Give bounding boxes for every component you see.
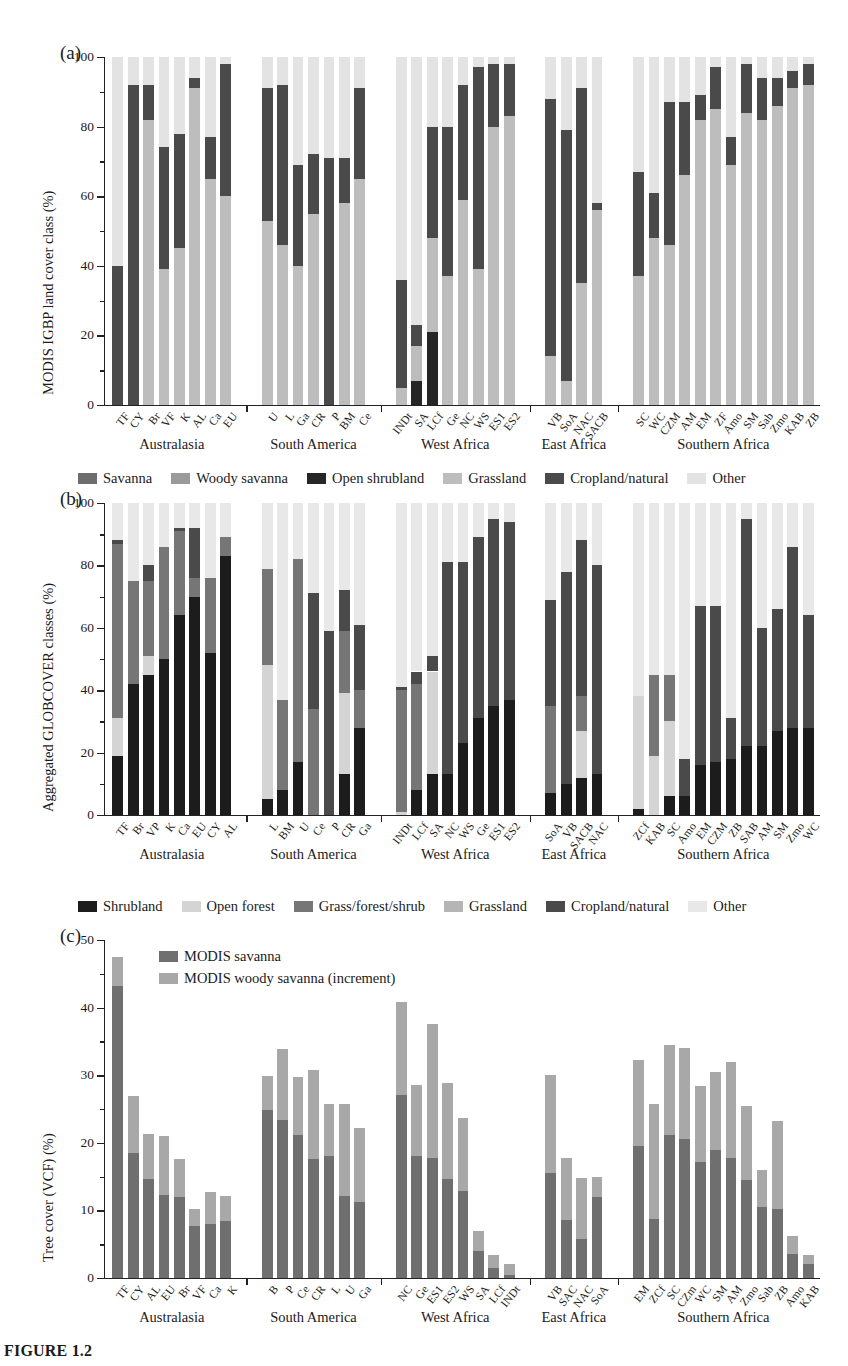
bar-segment [787,57,798,71]
bar [545,503,556,815]
y-tick-label: 0 [60,1271,94,1285]
bar [473,57,484,405]
bar-segment [695,1162,706,1278]
bar [354,940,365,1278]
bar-segment [339,158,350,203]
x-tick-label: AM [677,410,698,432]
bar-segment [664,503,675,675]
y-tick-major [97,196,104,197]
bar-segment [354,1202,365,1278]
bar-segment [411,57,422,325]
x-tick-label: INDt [390,410,414,436]
bar [128,503,139,815]
bar-segment [262,665,273,799]
bar-segment [741,1180,752,1278]
bar [442,940,453,1278]
bar [726,57,737,405]
bar-segment [504,57,515,64]
bar [726,940,737,1278]
bar-segment [504,1264,515,1275]
bar-segment [649,1104,660,1218]
bar [679,940,690,1278]
bar [220,503,231,815]
x-tick-label: SoA [588,1283,610,1307]
bar-segment [174,615,185,815]
bar-segment [473,67,484,269]
y-tick-label: 20 [60,746,94,760]
bar-segment [112,503,123,540]
bar [205,57,216,405]
bar-segment [545,1075,556,1173]
x-tick-label: NC [395,1283,414,1303]
bar-segment [679,796,690,815]
bar [741,57,752,405]
x-tick-label: Zmo [737,1283,760,1308]
x-tick-label: P [329,410,342,423]
bar-segment [458,200,469,405]
x-tick-label: K [225,1283,240,1297]
x-tick-label: ES1 [486,820,507,843]
bar-segment [354,88,365,178]
bar-segment [112,544,123,719]
bar-segment [772,503,783,609]
bar-segment [339,1104,350,1195]
x-tick-label: Ge [474,820,492,838]
y-tick-major [97,405,104,406]
x-tick-label: VB [560,820,579,840]
bar [189,57,200,405]
bar [649,940,660,1278]
y-tick-major [97,335,104,336]
bar-segment [664,102,675,245]
y-tick-label: 40 [60,683,94,697]
y-axis-line [104,940,105,1278]
bar-segment [803,85,814,405]
x-tick-label: VB [545,1283,564,1303]
bar-segment [473,1251,484,1278]
x-tick-label: Br [176,1283,193,1300]
x-tick-label: CY [204,820,223,840]
bar-segment [803,57,814,64]
panel-c-y-axis-label: Tree cover (VCF) (%) [40,1133,57,1262]
legend-item: Cropland/natural [545,470,668,487]
legend-swatch [545,473,564,484]
y-tick-label: 20 [60,1136,94,1150]
y-tick-label: 0 [60,808,94,822]
bar-segment [726,718,737,759]
legend-swatch [307,473,326,484]
y-tick-minor [100,1244,105,1245]
group-separator-tick [530,1278,531,1285]
bar [442,57,453,405]
x-tick-label: Sab [755,410,775,431]
bar-segment [143,1179,154,1278]
x-tick-label: B [266,1283,280,1297]
bar-segment [504,503,515,522]
x-tick-label: KAB [797,1283,822,1310]
bar-segment [576,88,587,283]
bar-segment [189,1209,200,1226]
x-tick-label: LCf [425,410,446,432]
figure-1-2: FIGURE 1.2 (a)MODIS IGBP land cover clas… [0,0,848,1366]
group-label: South America [219,436,407,453]
bar-segment [220,556,231,815]
legend-item: Cropland/natural [546,898,669,915]
bar [772,940,783,1278]
bar-segment [726,165,737,405]
bar-segment [576,57,587,88]
bar [649,57,660,405]
bar-segment [411,346,422,381]
bar-segment [772,1121,783,1209]
bar-segment [293,762,304,815]
x-tick-label: CR [339,820,358,840]
bar-segment [664,1045,675,1134]
bar-segment [277,245,288,405]
bar-segment [488,57,499,64]
group-separator-tick [246,405,247,412]
legend-label: Grass/forest/shrub [319,898,425,915]
bar-segment [189,1226,200,1278]
bar-segment [128,85,139,405]
x-tick-label: BM [275,820,296,842]
bar-segment [633,809,644,815]
legend-label: Other [712,470,745,487]
bar-segment [741,519,752,747]
bar-segment [649,238,660,405]
